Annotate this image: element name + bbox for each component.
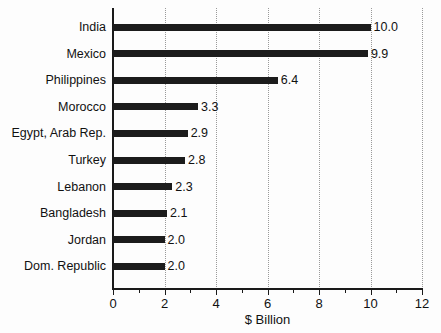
bar-row: Lebanon2.3: [0, 174, 441, 201]
bar: [113, 236, 165, 243]
x-axis-title: $ Billion: [113, 312, 422, 327]
x-tick-minor: [396, 290, 397, 293]
x-tick-minor: [190, 290, 191, 293]
x-tick-major: [113, 290, 114, 295]
category-label: Turkey: [0, 147, 106, 174]
x-tick-major: [371, 290, 372, 295]
category-label: Jordan: [0, 227, 106, 254]
bar-value-label: 2.1: [170, 203, 187, 223]
bar-value-label: 2.8: [188, 150, 205, 170]
category-label: Lebanon: [0, 174, 106, 201]
category-label: Morocco: [0, 94, 106, 121]
bar: [113, 263, 165, 270]
bar-value-label: 3.3: [201, 97, 218, 117]
bar: [113, 50, 368, 57]
x-tick-label: 10: [363, 296, 377, 311]
x-tick-major: [319, 290, 320, 295]
bar-chart: India10.0Mexico9.9Philippines6.4Morocco3…: [0, 0, 441, 333]
bar-row: Mexico9.9: [0, 41, 441, 68]
bar-value-label: 2.3: [175, 177, 192, 197]
bar: [113, 24, 371, 31]
x-tick-label: 8: [315, 296, 322, 311]
bar-row: Morocco3.3: [0, 94, 441, 121]
x-tick-major: [422, 290, 423, 295]
category-label: India: [0, 14, 106, 41]
bar-row: Jordan2.0: [0, 227, 441, 254]
bar-value-label: 2.0: [168, 256, 185, 276]
x-tick-label: 0: [109, 296, 116, 311]
category-label: Philippines: [0, 67, 106, 94]
x-tick-minor: [293, 290, 294, 293]
bar-value-label: 10.0: [374, 17, 398, 37]
x-tick-minor: [242, 290, 243, 293]
x-tick-major: [216, 290, 217, 295]
x-tick-minor: [345, 290, 346, 293]
x-tick-label: 12: [415, 296, 429, 311]
x-tick-label: 2: [161, 296, 168, 311]
x-tick-major: [268, 290, 269, 295]
bar: [113, 210, 167, 217]
category-label: Bangladesh: [0, 200, 106, 227]
bar-row: Philippines6.4: [0, 67, 441, 94]
x-tick-label: 4: [212, 296, 219, 311]
category-label: Dom. Republic: [0, 253, 106, 280]
x-tick-minor: [139, 290, 140, 293]
bar-row: Turkey2.8: [0, 147, 441, 174]
bar: [113, 77, 278, 84]
category-label: Egypt, Arab Rep.: [0, 120, 106, 147]
x-tick-major: [165, 290, 166, 295]
x-tick-label: 6: [264, 296, 271, 311]
bar-value-label: 2.0: [168, 230, 185, 250]
bar-row: Bangladesh2.1: [0, 200, 441, 227]
bar-row: Egypt, Arab Rep.2.9: [0, 120, 441, 147]
bar-value-label: 6.4: [281, 70, 298, 90]
bar: [113, 157, 185, 164]
bar-row: India10.0: [0, 14, 441, 41]
bar-row: Dom. Republic2.0: [0, 253, 441, 280]
bar-value-label: 2.9: [191, 123, 208, 143]
bar: [113, 103, 198, 110]
bar-value-label: 9.9: [371, 44, 388, 64]
category-label: Mexico: [0, 41, 106, 68]
bar: [113, 130, 188, 137]
bar: [113, 183, 172, 190]
